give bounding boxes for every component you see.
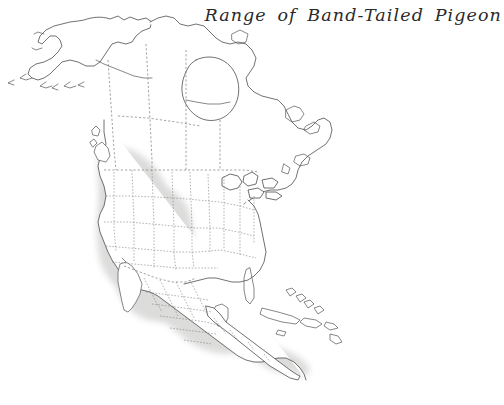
canada-coastline (150, 16, 332, 204)
north-america-range-map (0, 0, 504, 405)
map-plate: Range of Band-Tailed Pigeon (0, 0, 504, 405)
alaska-coastline (8, 16, 152, 90)
caribbean-islands (260, 288, 342, 344)
